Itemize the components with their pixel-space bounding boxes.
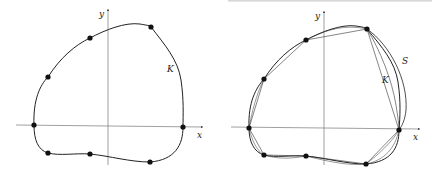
sample-points: [31, 24, 185, 164]
y-axis-label: y: [98, 9, 105, 19]
curve-label-k: K: [381, 75, 390, 85]
right-panel: x y K S: [231, 11, 419, 167]
curve-label-s: S: [402, 56, 408, 66]
curve-k: [34, 24, 183, 162]
x-axis-label: x: [413, 132, 418, 142]
curve-k: [249, 26, 400, 164]
x-axis: [231, 127, 419, 129]
y-axis-label: y: [314, 11, 321, 21]
left-panel: x y K: [16, 9, 202, 165]
figure: x y K x y: [0, 0, 434, 174]
x-axis-label: x: [197, 130, 202, 140]
x-axis: [16, 125, 202, 127]
curve-label-k: K: [166, 64, 175, 74]
